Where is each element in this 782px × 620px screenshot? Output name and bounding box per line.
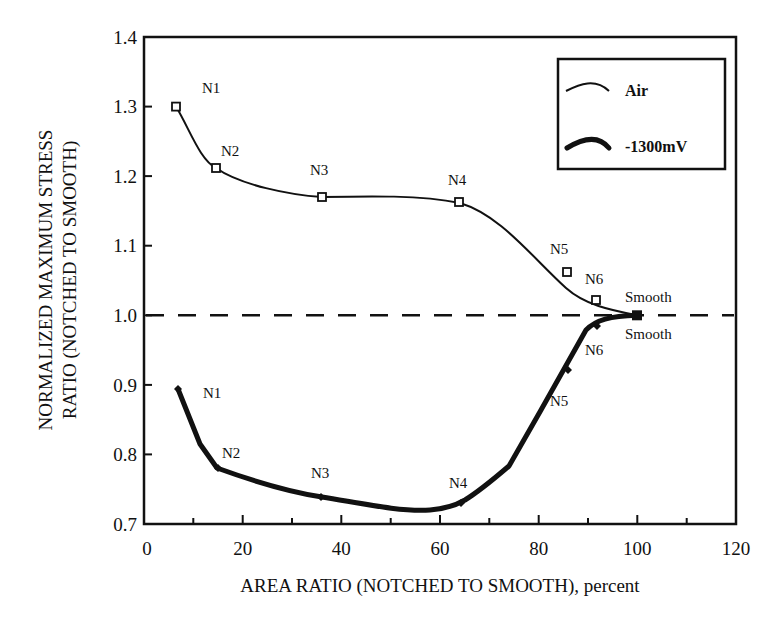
y-axis-title-line1: NORMALIZED MAXIMUM STRESS — [35, 130, 56, 431]
x-tick-label: 20 — [233, 538, 252, 559]
air-marker-n1 — [172, 103, 180, 111]
air-label-smooth: Smooth — [625, 289, 672, 305]
air-marker-n6 — [592, 296, 600, 304]
chart-canvas: 0.7 0.8 0.9 1.0 1.1 1.2 1.3 1.4 0 20 40 … — [0, 0, 782, 620]
air-label-n3: N3 — [310, 162, 328, 178]
y-tick-label: 1.0 — [113, 305, 137, 326]
cathodic-label-n5: N5 — [550, 393, 568, 409]
series-cathodic-line — [178, 315, 637, 510]
cathodic-label-n4: N4 — [449, 475, 468, 491]
y-tick-label: 0.7 — [113, 514, 137, 535]
air-label-n2: N2 — [221, 143, 239, 159]
y-tick-labels: 0.7 0.8 0.9 1.0 1.1 1.2 1.3 1.4 — [113, 27, 137, 535]
y-tick-label: 0.8 — [113, 444, 137, 465]
y-tick-label: 1.4 — [113, 27, 137, 48]
x-axis — [193, 515, 686, 524]
legend-air-label: Air — [625, 82, 648, 99]
legend: Air -1300mV — [558, 59, 725, 169]
x-tick-label: 60 — [431, 538, 450, 559]
air-label-n4: N4 — [448, 172, 467, 188]
y-tick-label: 1.3 — [113, 96, 137, 117]
cathodic-label-n2: N2 — [222, 445, 240, 461]
air-marker-n2 — [212, 164, 220, 172]
smooth-marker — [632, 310, 642, 320]
x-tick-label: 80 — [529, 538, 548, 559]
air-marker-n4 — [455, 198, 463, 206]
x-tick-label: 100 — [623, 538, 652, 559]
air-marker-n5 — [563, 268, 571, 276]
air-label-n1: N1 — [202, 80, 220, 96]
y-axis-title: NORMALIZED MAXIMUM STRESS RATIO (NOTCHED… — [35, 130, 81, 431]
y-tick-label: 0.9 — [113, 375, 137, 396]
air-label-n6: N6 — [585, 271, 604, 287]
x-tick-labels: 0 20 40 60 80 100 120 — [142, 538, 750, 559]
x-tick-label: 0 — [142, 538, 152, 559]
x-tick-label: 120 — [722, 538, 751, 559]
y-tick-label: 1.2 — [113, 166, 137, 187]
cathodic-label-smooth: Smooth — [625, 326, 672, 342]
series-air-markers — [172, 103, 600, 304]
cathodic-label-n6: N6 — [585, 342, 604, 358]
air-marker-n3 — [318, 193, 326, 201]
cathodic-point-labels: N1 N2 N3 N4 N5 N6 Smooth — [203, 326, 672, 491]
legend-cathodic-label: -1300mV — [625, 138, 688, 155]
y-tick-label: 1.1 — [113, 235, 137, 256]
x-axis-title: AREA RATIO (NOTCHED TO SMOOTH), percent — [240, 575, 640, 597]
cathodic-label-n3: N3 — [311, 465, 329, 481]
y-axis-title-line2: RATIO (NOTCHED TO SMOOTH) — [59, 141, 81, 420]
cathodic-label-n1: N1 — [203, 385, 221, 401]
air-label-n5: N5 — [550, 241, 568, 257]
x-tick-label: 40 — [332, 538, 351, 559]
